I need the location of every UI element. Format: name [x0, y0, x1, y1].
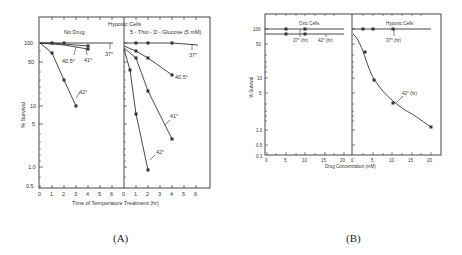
svg-text:41°: 41°: [170, 113, 178, 119]
svg-text:15: 15: [321, 158, 327, 163]
svg-text:5: 5: [182, 191, 185, 197]
svg-text:4: 4: [86, 191, 89, 197]
svg-text:0: 0: [265, 158, 268, 163]
svg-text:20: 20: [340, 158, 346, 163]
chart-b: Oxic Cells Hypoxic Cells 37° (hr) 42° (h…: [249, 14, 441, 169]
svg-text:37° (hr): 37° (hr): [386, 38, 402, 43]
svg-text:3: 3: [74, 191, 77, 197]
b-left-series: [265, 29, 431, 127]
svg-text:42°: 42°: [79, 89, 87, 95]
svg-text:5: 5: [371, 158, 374, 163]
svg-text:1.0: 1.0: [28, 164, 36, 170]
svg-text:37°: 37°: [189, 52, 197, 58]
figure-label-a: (A): [113, 232, 128, 244]
svg-text:1: 1: [134, 191, 137, 197]
svg-text:50: 50: [256, 42, 262, 47]
a-right-title-1: Hypoxic Cells: [108, 21, 142, 27]
svg-text:42° (hr): 42° (hr): [318, 38, 334, 43]
b-left-title: Oxic Cells: [299, 21, 320, 26]
b-xlabel: Drug Concentration (mM): [325, 164, 376, 169]
svg-text:10: 10: [257, 76, 263, 81]
svg-text:5: 5: [284, 158, 287, 163]
svg-text:37° (hr): 37° (hr): [293, 38, 309, 43]
svg-text:15: 15: [408, 158, 414, 163]
svg-text:37°: 37°: [105, 51, 113, 57]
svg-text:10: 10: [302, 158, 308, 163]
svg-text:0.5: 0.5: [26, 183, 34, 189]
svg-text:5: 5: [98, 191, 101, 197]
figure-canvas: No Drug Hypoxic Cells 5 - Thio - D - Glu…: [0, 0, 462, 255]
svg-text:20: 20: [427, 158, 433, 163]
svg-text:42° (hr): 42° (hr): [402, 91, 418, 96]
a-right-title-2: 5 - Thio - D - Glucose (5 mM): [130, 29, 202, 35]
figure-label-b: (B): [346, 232, 361, 244]
b-right-title: Hypoxic Cells: [386, 21, 414, 26]
svg-text:100: 100: [24, 40, 33, 46]
chart-a: No Drug Hypoxic Cells 5 - Thio - D - Glu…: [20, 17, 210, 206]
svg-text:5: 5: [259, 91, 262, 96]
svg-text:10: 10: [389, 158, 395, 163]
svg-text:42°: 42°: [156, 149, 164, 155]
svg-text:5: 5: [32, 121, 35, 127]
svg-text:50: 50: [28, 59, 34, 65]
a-ylabel: % Survival: [20, 102, 26, 128]
svg-text:0: 0: [351, 158, 354, 163]
svg-text:0.3: 0.3: [256, 154, 263, 159]
a-left-title: No Drug: [64, 29, 84, 35]
svg-text:0: 0: [122, 191, 125, 197]
svg-text:10: 10: [30, 103, 36, 109]
svg-text:3: 3: [158, 191, 161, 197]
svg-text:1: 1: [50, 191, 53, 197]
svg-text:6: 6: [110, 191, 113, 197]
svg-text:40.5°: 40.5°: [62, 58, 75, 64]
b-ylabel: % Survival: [249, 77, 254, 98]
svg-text:2: 2: [62, 191, 65, 197]
svg-text:2: 2: [146, 191, 149, 197]
svg-text:1.0: 1.0: [256, 128, 263, 133]
svg-text:4: 4: [170, 191, 173, 197]
a-xlabel: Time of Temperature Treatment (hr): [72, 200, 159, 206]
svg-text:6: 6: [194, 191, 197, 197]
svg-text:100: 100: [253, 27, 261, 32]
svg-text:41°: 41°: [84, 57, 92, 63]
svg-text:40.5°: 40.5°: [175, 74, 188, 80]
svg-text:0.5: 0.5: [256, 143, 263, 148]
svg-text:0: 0: [38, 191, 41, 197]
